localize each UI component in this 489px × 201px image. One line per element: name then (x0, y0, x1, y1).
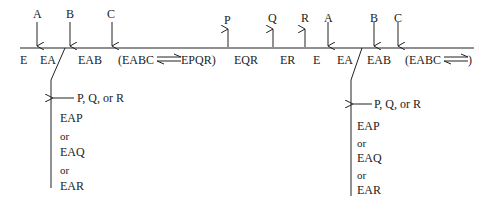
species-EAB2: EAB (367, 54, 391, 66)
branch-right-EAP: EAP (357, 120, 380, 132)
label-C: C (107, 8, 115, 20)
branch-left-EAQ: EAQ (60, 146, 85, 158)
label-B2: B (370, 12, 378, 24)
branch-right-or1: or (357, 137, 366, 149)
species-close-paren: ) (468, 54, 472, 66)
label-R: R (301, 12, 309, 24)
branch-right-EAR: EAR (357, 184, 381, 196)
species-EAB: EAB (78, 54, 102, 66)
label-B: B (66, 8, 74, 20)
label-C2: C (394, 12, 402, 24)
species-EABC: (EABC (118, 54, 154, 66)
branch-left-EAP: EAP (60, 112, 83, 124)
branch-left-or1: or (60, 130, 69, 142)
equilibrium-arrow-left (157, 54, 181, 64)
species-EPQR: EPQR) (181, 54, 216, 66)
species-EA: EA (40, 54, 56, 66)
label-P: P (224, 14, 231, 26)
equilibrium-arrow-right (444, 54, 468, 64)
species-EQR: EQR (234, 54, 258, 66)
label-A2: A (324, 12, 333, 24)
species-ER: ER (280, 54, 295, 66)
branch-right-EAQ: EAQ (357, 152, 382, 164)
branch-left-or2: or (60, 164, 69, 176)
label-Q: Q (268, 12, 277, 24)
species-E2: E (313, 54, 320, 66)
branch-left-EAR: EAR (60, 180, 84, 192)
label-A: A (33, 8, 42, 20)
species-EA2: EA (337, 54, 353, 66)
branch-right-arrow-label: P, Q, or R (374, 98, 421, 110)
branch-left-arrow-label: P, Q, or R (77, 92, 124, 104)
branch-right-or2: or (357, 169, 366, 181)
species-E: E (20, 54, 27, 66)
species-EABC2: (EABC (405, 54, 441, 66)
